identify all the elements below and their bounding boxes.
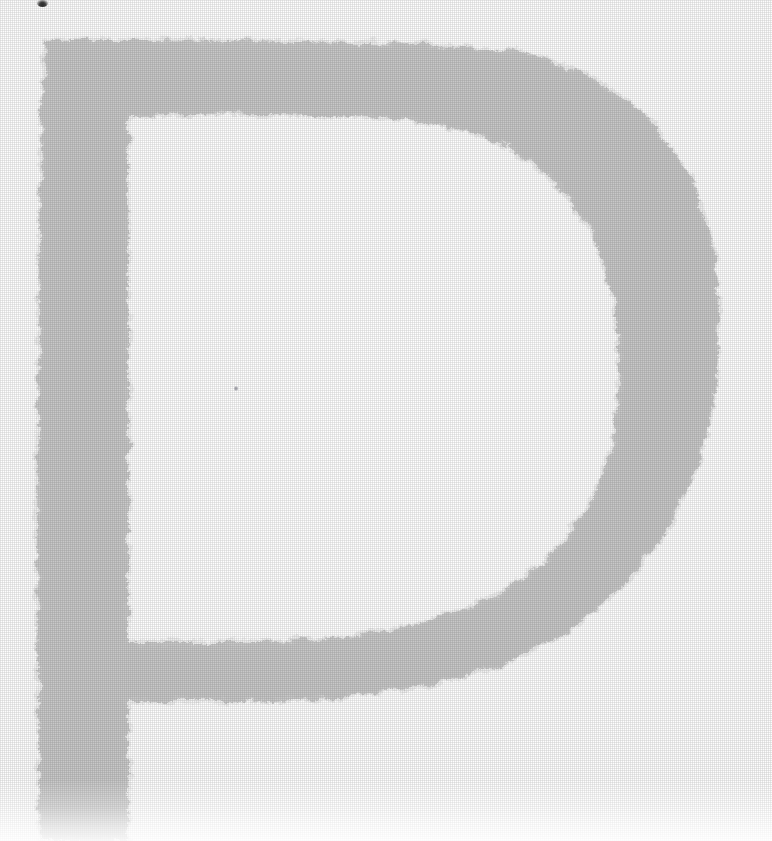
- ink-speck-top: [37, 0, 48, 7]
- ink-speck-middle: [234, 386, 238, 391]
- dropcap-ink-body: [37, 40, 720, 841]
- dropcap-glyph-svg: [0, 0, 772, 841]
- dropcap-letter-p: [0, 0, 772, 841]
- scanned-page: Large decorative drop-cap letter P print…: [0, 0, 772, 841]
